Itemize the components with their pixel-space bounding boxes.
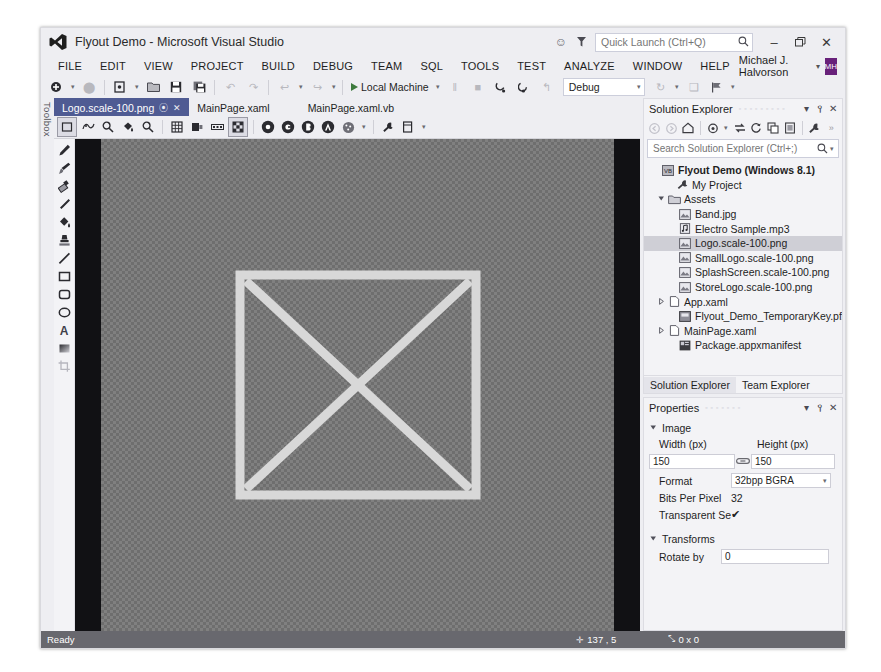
grid-icon[interactable] bbox=[168, 118, 186, 136]
close-icon[interactable]: ✕ bbox=[173, 103, 181, 113]
collapse-all-icon[interactable] bbox=[765, 120, 781, 136]
new-item-icon[interactable]: ⬤ bbox=[78, 77, 100, 97]
image-toolbar-overflow-icon[interactable]: ▾ bbox=[419, 123, 428, 131]
tree-item-electro-sample-mp3[interactable]: Electro Sample.mp3 bbox=[644, 221, 842, 236]
crop-tool[interactable] bbox=[56, 359, 72, 374]
document-tab-logo-png[interactable]: Logo.scale-100.png ⦿ ✕ bbox=[54, 98, 189, 116]
filmstrip-icon[interactable] bbox=[208, 118, 226, 136]
window-menu-icon[interactable]: ▾ bbox=[800, 101, 813, 116]
open-file-icon[interactable] bbox=[109, 77, 131, 97]
tree-item-mainpage-xaml[interactable]: MainPage.xaml bbox=[644, 324, 842, 339]
home-icon[interactable] bbox=[680, 120, 696, 136]
tree-item-band-jpg[interactable]: Band.jpg bbox=[644, 207, 842, 222]
navigate-forward-icon[interactable]: ↪ bbox=[306, 77, 328, 97]
link-dimensions-icon[interactable] bbox=[735, 457, 751, 467]
channel-a-icon[interactable] bbox=[319, 118, 337, 136]
pin-icon[interactable]: ⫯ bbox=[813, 101, 826, 116]
channel-g-icon[interactable] bbox=[279, 118, 297, 136]
document-tab-mainpage-xaml-vb[interactable]: MainPage.xaml.vb bbox=[300, 98, 402, 116]
tree-item-project[interactable]: VB Flyout Demo (Windows 8.1) bbox=[644, 163, 842, 178]
refresh-caret-icon[interactable]: ▾ bbox=[673, 83, 682, 91]
gradient-tool[interactable] bbox=[56, 341, 72, 356]
tree-item-splashscreen-scale-100-png[interactable]: SplashScreen.scale-100.png bbox=[644, 265, 842, 280]
rotate-field[interactable]: 0 bbox=[721, 549, 829, 564]
text-tool[interactable]: A bbox=[56, 323, 72, 338]
menu-item-project[interactable]: PROJECT bbox=[182, 60, 253, 72]
menu-item-window[interactable]: WINDOW bbox=[624, 60, 691, 72]
toolbar-overflow-icon[interactable]: ▾ bbox=[729, 83, 738, 91]
height-field[interactable]: 150 bbox=[751, 454, 835, 469]
open-folder-icon[interactable] bbox=[142, 77, 164, 97]
redo-icon[interactable]: ↷ bbox=[242, 77, 264, 97]
tab-solution-explorer[interactable]: Solution Explorer bbox=[644, 377, 736, 393]
brush-tool[interactable] bbox=[56, 161, 72, 176]
close-button[interactable]: ✕ bbox=[813, 31, 839, 53]
menu-item-help[interactable]: HELP bbox=[691, 60, 739, 72]
toolbox-tab[interactable]: Toolbox bbox=[41, 98, 54, 631]
expander-icon[interactable] bbox=[656, 298, 667, 306]
cycle-clipboard-icon[interactable]: ❑ bbox=[683, 77, 705, 97]
tree-item-storelogo-scale-100-png[interactable]: StoreLogo.scale-100.png bbox=[644, 280, 842, 295]
save-icon[interactable] bbox=[165, 77, 187, 97]
pan-rotate-icon[interactable] bbox=[79, 118, 97, 136]
window-menu-icon[interactable]: ▾ bbox=[800, 400, 813, 415]
rounded-rectangle-tool[interactable] bbox=[56, 287, 72, 302]
navigate-backward-icon[interactable]: ↩ bbox=[273, 77, 295, 97]
select-rectangle-tool[interactable] bbox=[57, 117, 77, 137]
tree-item-package-appxmanifest[interactable]: Package.appxmanifest bbox=[644, 338, 842, 353]
ellipse-tool[interactable] bbox=[56, 305, 72, 320]
stop-icon[interactable]: ■ bbox=[467, 77, 489, 97]
save-all-icon[interactable] bbox=[188, 77, 210, 97]
close-icon[interactable]: ✕ bbox=[826, 101, 839, 116]
navigate-forward-caret-icon[interactable]: ▾ bbox=[329, 83, 338, 91]
format-combo[interactable]: 32bpp BGRA ▾ bbox=[731, 473, 831, 488]
stamp-tool[interactable] bbox=[56, 233, 72, 248]
tree-item-my-project[interactable]: My Project bbox=[644, 178, 842, 193]
eyedropper-tool[interactable] bbox=[56, 197, 72, 212]
restore-button[interactable] bbox=[787, 31, 813, 53]
menu-item-debug[interactable]: DEBUG bbox=[304, 60, 362, 72]
pause-icon[interactable]: ‖ bbox=[444, 77, 466, 97]
open-file-caret-icon[interactable]: ▾ bbox=[132, 83, 141, 91]
tool-options-icon[interactable] bbox=[379, 118, 397, 136]
channel-r-icon[interactable] bbox=[259, 118, 277, 136]
zoom-in-icon[interactable] bbox=[99, 118, 117, 136]
tab-team-explorer[interactable]: Team Explorer bbox=[736, 377, 816, 393]
checkerboard-icon[interactable] bbox=[228, 117, 248, 137]
sync-with-document-icon[interactable] bbox=[732, 120, 748, 136]
tree-item-smalllogo-scale-100-png[interactable]: SmallLogo.scale-100.png bbox=[644, 251, 842, 266]
menu-item-team[interactable]: TEAM bbox=[362, 60, 411, 72]
channel-b-icon[interactable] bbox=[299, 118, 317, 136]
magnifier-icon[interactable] bbox=[139, 118, 157, 136]
transparent-checkbox[interactable]: ✔ bbox=[731, 508, 740, 521]
tree-item-app-xaml[interactable]: App.xaml bbox=[644, 294, 842, 309]
tree-item-logo-scale-100-png[interactable]: Logo.scale-100.png bbox=[644, 236, 842, 251]
feedback-icon[interactable]: ☺ bbox=[551, 33, 571, 51]
expander-icon[interactable] bbox=[649, 424, 658, 432]
expander-icon[interactable] bbox=[649, 535, 658, 543]
undo-icon[interactable]: ↶ bbox=[219, 77, 241, 97]
pending-changes-caret-icon[interactable]: ▾ bbox=[722, 124, 731, 132]
pin-icon[interactable]: ⦿ bbox=[159, 101, 168, 114]
overflow-icon[interactable]: » bbox=[823, 120, 839, 136]
pending-changes-icon[interactable] bbox=[705, 120, 721, 136]
pencil-tool[interactable] bbox=[56, 143, 72, 158]
solution-explorer-search[interactable]: ▾ bbox=[647, 139, 839, 158]
alpha-blend-icon[interactable] bbox=[339, 118, 357, 136]
new-project-icon[interactable] bbox=[45, 77, 67, 97]
width-field[interactable]: 150 bbox=[649, 454, 735, 469]
notifications-icon[interactable] bbox=[571, 33, 591, 51]
fill-tool[interactable] bbox=[56, 215, 72, 230]
expander-icon[interactable] bbox=[656, 327, 667, 335]
step-over-icon[interactable] bbox=[513, 77, 535, 97]
menu-item-tools[interactable]: TOOLS bbox=[452, 60, 508, 72]
menu-item-analyze[interactable]: ANALYZE bbox=[555, 60, 624, 72]
flag-icon[interactable] bbox=[706, 77, 728, 97]
refresh-icon[interactable] bbox=[748, 120, 764, 136]
menu-item-test[interactable]: TEST bbox=[508, 60, 555, 72]
category-image[interactable]: Image bbox=[649, 422, 837, 434]
quick-launch-box[interactable] bbox=[595, 33, 753, 52]
line-tool[interactable] bbox=[56, 251, 72, 266]
solution-configuration-combo[interactable]: Debug ▾ bbox=[563, 78, 645, 96]
eraser-tool[interactable] bbox=[56, 179, 72, 194]
